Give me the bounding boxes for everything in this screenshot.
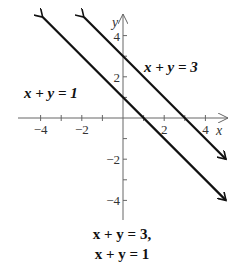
annotation-x-plus-y-equals-1: x + y = 1 xyxy=(23,85,78,101)
caption-line-2: x + y = 1 xyxy=(0,246,244,263)
series-line xyxy=(84,17,226,159)
caption-line-1: x + y = 3, xyxy=(0,226,244,243)
series-line xyxy=(43,17,226,200)
y-tick-label: −2 xyxy=(106,152,120,167)
annotation-x-plus-y-equals-3: x + y = 3 xyxy=(143,59,198,75)
x-tick-label: 4 xyxy=(202,122,209,137)
x-tick-label: 2 xyxy=(161,122,168,137)
x-axis-label: x xyxy=(215,123,223,138)
y-tick-label: 2 xyxy=(114,70,121,85)
x-tick-label: −2 xyxy=(75,122,89,137)
y-axis-label: y xyxy=(110,15,119,30)
y-tick-label: 4 xyxy=(114,29,121,44)
x-tick-label: −4 xyxy=(34,122,48,137)
y-tick-label: −4 xyxy=(106,193,120,208)
